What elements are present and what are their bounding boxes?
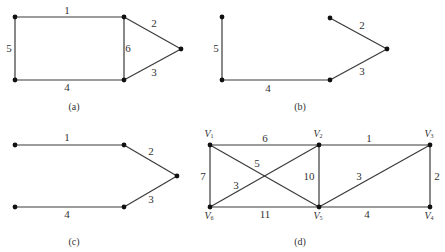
vertex-dot [428,143,433,148]
vertex-dot [317,143,322,148]
vertex-dot [13,15,18,20]
vertex-label: V4 [424,210,433,221]
vertex-dot [328,78,333,83]
edge-weight-label: 7 [200,170,206,182]
vertex-label: V3 [424,128,433,139]
figure-c-graph: 1234(c) [13,131,180,249]
figure-b-graph: 5234(b) [213,15,389,114]
vertex-dot [179,47,184,52]
edge-weight-label: 5 [254,157,260,169]
figure-caption: (d) [294,236,306,248]
edge-weight-label: 2 [359,19,365,31]
edge-weight-label: 3 [356,170,362,182]
vertex-dot [122,143,127,148]
vertex-dot [122,205,127,210]
edge-weight-label: 2 [148,145,154,157]
vertex-dot [220,15,225,20]
vertex-dot [13,78,18,83]
edge-weight-label: 3 [233,179,239,191]
edge-weight-label: 6 [262,132,268,144]
edge-weight-label: 3 [148,193,154,205]
edge-weight-label: 5 [213,42,219,54]
vertex-dot [220,78,225,83]
vertex-label: V5 [313,210,322,221]
vertex-dot [317,205,322,210]
edge-weight-label: 5 [6,42,12,54]
vertex-dot [385,47,390,52]
vertex-dot [13,205,18,210]
vertex-label: V6 [204,210,213,221]
edge-weight-label: 11 [260,208,271,220]
edge [319,145,430,207]
vertex-dot [428,205,433,210]
vertex-dot [208,143,213,148]
vertex-dot [208,205,213,210]
figure-caption: (b) [294,101,306,113]
figure-caption: (c) [68,236,79,248]
graph-diagram-canvas: 123456(a) 5234(b) 1234(c) 615710332114V1… [0,0,445,252]
figure-d-graph: 615710332114V1V2V3V4V5V6(d) [200,128,440,248]
figure-a-graph: 123456(a) [6,4,183,114]
vertex-label: V2 [313,128,322,139]
edge-weight-label: 1 [64,4,70,16]
edge-weight-label: 3 [151,66,157,78]
vertex-dot [122,78,127,83]
edge-weight-label: 6 [125,42,131,54]
edge-weight-label: 10 [304,170,316,182]
edge-weight-label: 3 [359,65,365,77]
vertex-label: V1 [204,128,213,139]
edge-weight-label: 2 [434,170,440,182]
vertex-dot [328,16,333,21]
edge-weight-label: 4 [364,208,370,220]
vertex-dot [13,143,18,148]
edge-weight-label: 4 [64,208,70,220]
edge-weight-label: 1 [366,132,372,144]
vertex-dot [122,15,127,20]
edge-weight-label: 4 [64,81,70,93]
vertex-dot [175,174,180,179]
edge-weight-label: 4 [265,82,271,94]
edge-weight-label: 2 [151,17,157,29]
edge-weight-label: 1 [64,131,70,143]
figure-caption: (a) [68,101,79,113]
